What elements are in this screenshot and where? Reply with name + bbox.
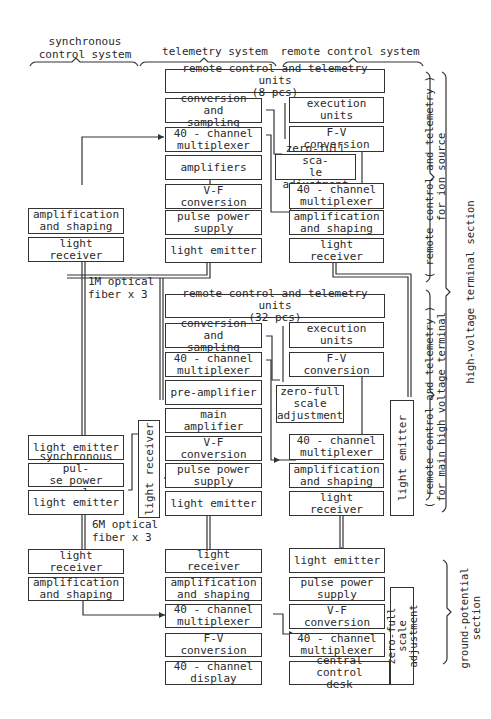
ground-40ch-display: 40 - channel display: [165, 661, 262, 685]
main-pulse-power-supply: pulse power supply: [165, 463, 262, 488]
label-hv-section: high-voltage terminal section: [464, 192, 476, 392]
ion-rc-40ch-multiplexer: 40 - channel multiplexer: [289, 183, 384, 209]
ion-amplifiers: amplifiers: [165, 155, 262, 180]
rc-telemetry-units-32: remote control and telemetry units (32 p…: [165, 294, 385, 318]
sync-amplification-shaping-bottom: amplification and shaping: [28, 577, 124, 601]
fiber-6m-label: 6M optical fiber x 3: [92, 518, 158, 544]
sync-light-receiver-top: light receiver: [28, 237, 124, 262]
side-light-emitter: light emitter: [390, 400, 414, 516]
ion-zero-full-scale: zero-full sca- le adjustment: [275, 154, 356, 180]
main-rc-40ch-multiplexer: 40 - channel multiplexer: [289, 434, 384, 460]
label-main-terminal: ( remote control and telemetry ) for mai…: [423, 292, 447, 522]
ground-pulse-power-supply: pulse power supply: [289, 577, 385, 601]
sync-amplification-shaping-top: amplification and shaping: [28, 208, 124, 234]
sync-light-receiver-bottom: light receiver: [28, 549, 124, 574]
main-pre-amplifier: pre-amplifier: [165, 380, 262, 405]
ion-vf-conversion: V-F conversion: [165, 184, 262, 209]
main-main-amplifier: main amplifier: [165, 408, 262, 433]
ion-conversion-sampling: conversion and sampling: [165, 98, 262, 123]
brace-sync: [30, 58, 138, 66]
ground-amplification-shaping: amplification and shaping: [165, 577, 262, 601]
ground-zero-full-scale-label: zero-full scale adjustment: [386, 604, 419, 667]
ion-amplification-shaping: amplification and shaping: [289, 210, 384, 235]
ion-light-receiver: light receiver: [289, 238, 384, 263]
label-ground-section: ground-potential section: [458, 548, 482, 688]
side-light-receiver: light receiver: [138, 420, 160, 518]
side-light-emitter-label: light emitter: [396, 415, 409, 501]
label-ion-source: ( remote control and telemetry ) for ion…: [423, 72, 447, 282]
ground-vf-conversion: V-F conversion: [289, 604, 385, 629]
sync-light-emitter-2: light emitter: [28, 490, 124, 515]
main-amplification-shaping: amplification and shaping: [289, 463, 384, 488]
main-vf-conversion: V-F conversion: [165, 436, 262, 461]
ground-light-receiver: light receiver: [165, 549, 262, 573]
ground-zero-full-scale: zero-full scale adjustment: [390, 587, 414, 685]
main-light-emitter: light emitter: [165, 491, 262, 516]
ion-pulse-power-supply: pulse power supply: [165, 210, 262, 235]
rc-telemetry-units-8: remote control and telemetry units (8 pc…: [165, 69, 385, 93]
ground-light-emitter: light emitter: [289, 548, 385, 573]
ion-light-emitter: light emitter: [165, 238, 262, 263]
main-execution-units: execution units: [289, 322, 384, 348]
ground-40ch-multiplexer: 40 - channel multiplexer: [165, 604, 262, 628]
main-light-receiver: light receiver: [289, 491, 384, 516]
main-40ch-multiplexer: 40 - channel multiplexer: [165, 352, 262, 377]
main-zero-full-scale: zero-full scale adjustment: [276, 385, 344, 423]
main-conversion-sampling: conversion and sampling: [165, 323, 262, 348]
ground-fv-conversion: F-V conversion: [165, 633, 262, 657]
side-light-receiver-label: light receiver: [143, 423, 156, 516]
main-fv-conversion: F-V conversion: [289, 352, 384, 377]
ion-40ch-multiplexer: 40 - channel multiplexer: [165, 127, 262, 152]
central-control-desk: central control desk: [289, 661, 390, 685]
ion-execution-units: execution units: [289, 97, 384, 123]
sync-pulse-power-supply: synchronous pul- se power supply: [28, 463, 124, 487]
fiber-1m-label: 1M optical fiber x 3: [88, 275, 154, 301]
